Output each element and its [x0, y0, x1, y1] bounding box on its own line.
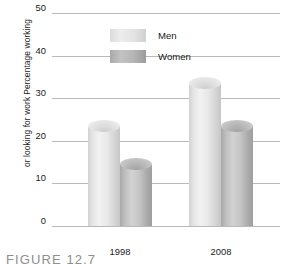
gridline-30: 30 — [52, 98, 280, 99]
gridline-0-baseline: 0 — [52, 226, 280, 227]
legend-item-men[interactable]: Men — [110, 28, 216, 43]
y-tick-label-30: 30 — [16, 87, 46, 98]
bar-1998-men[interactable] — [88, 120, 120, 227]
bar-2008-men[interactable] — [189, 77, 221, 226]
legend-swatch-women — [110, 50, 146, 63]
y-tick-label-50: 50 — [16, 2, 46, 13]
figure-bar-chart: Percentage working or looking for work 5… — [0, 0, 292, 264]
y-tick-label-0: 0 — [16, 215, 46, 226]
bar-2008-women[interactable] — [221, 120, 253, 227]
figure-caption: FIGURE 12.7 — [6, 252, 96, 264]
y-tick-label-20: 20 — [16, 130, 46, 141]
bar-cap — [120, 158, 152, 170]
x-tick-label-1998: 1998 — [88, 246, 152, 257]
y-axis-title-line-1: Percentage working — [23, 19, 33, 95]
bar-body — [189, 83, 221, 226]
gridline-50: 50 — [52, 13, 280, 14]
bar-body — [88, 126, 120, 227]
bar-1998-women[interactable] — [120, 158, 152, 226]
y-tick-label-40: 40 — [16, 45, 46, 56]
plot-area: 50 40 30 20 10 0 — [52, 13, 280, 226]
bar-cap — [221, 120, 253, 132]
bar-body — [221, 126, 253, 227]
legend-item-women[interactable]: Women — [110, 49, 216, 64]
bar-cap — [189, 77, 221, 89]
y-tick-label-10: 10 — [16, 172, 46, 183]
bar-body — [120, 164, 152, 226]
legend-label-women: Women — [158, 51, 191, 62]
bar-cap — [88, 120, 120, 132]
legend-label-men: Men — [158, 30, 177, 41]
x-tick-label-2008: 2008 — [189, 246, 253, 257]
legend: Men Women — [110, 28, 216, 70]
legend-swatch-men — [110, 29, 146, 42]
